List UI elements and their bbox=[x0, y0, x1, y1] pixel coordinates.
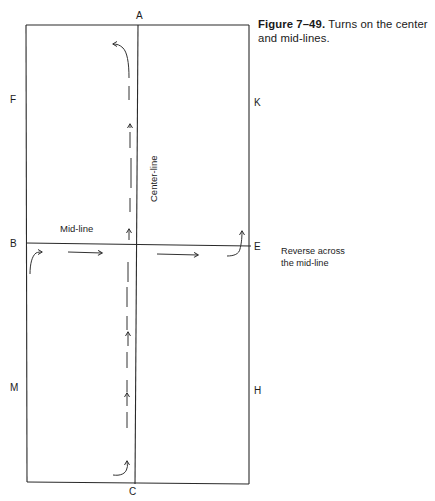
center-line bbox=[135, 25, 138, 484]
reverse-annotation-line1: Reverse across bbox=[281, 246, 345, 258]
point-label-f: F bbox=[10, 95, 16, 105]
figure-caption: Figure 7–49. Turns on the center and mid… bbox=[258, 17, 434, 45]
point-label-c: C bbox=[129, 487, 136, 497]
reverse-annotation: Reverse across the mid-line bbox=[281, 246, 345, 269]
point-label-m: M bbox=[10, 383, 18, 393]
arena-drawing bbox=[0, 0, 435, 501]
point-label-k: K bbox=[254, 98, 261, 108]
figure-number: Figure 7–49. bbox=[258, 18, 325, 30]
arena-diagram: A F K B E M H C Mid-line Center-line Fig… bbox=[0, 0, 435, 501]
point-label-e: E bbox=[254, 242, 261, 252]
mid-line-label: Mid-line bbox=[60, 223, 93, 234]
reverse-annotation-line2: the mid-line bbox=[281, 258, 345, 270]
point-label-h: H bbox=[254, 386, 261, 396]
mid-line bbox=[26, 243, 251, 246]
center-line-label: Center-line bbox=[148, 156, 159, 202]
point-label-a: A bbox=[136, 11, 143, 21]
point-label-b: B bbox=[10, 239, 17, 249]
